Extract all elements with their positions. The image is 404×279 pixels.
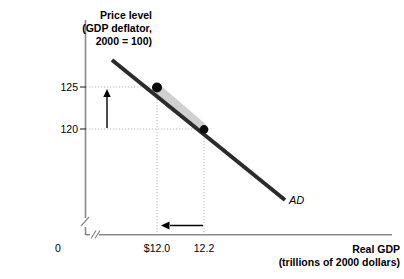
ad-curve-figure: Price level (GDP deflator, 2000 = 100) R… xyxy=(0,0,404,279)
price-level-rise-arrow xyxy=(103,89,110,128)
y-axis-label: Price level (GDP deflator, 2000 = 100) xyxy=(0,9,152,48)
x-axis-label: Real GDP (trillions of 2000 dollars) xyxy=(236,243,400,269)
x-tick-label-12-2: 12.2 xyxy=(178,242,230,254)
real-gdp-fall-arrow xyxy=(161,222,203,230)
y-tick-label-125: 125 xyxy=(44,81,78,93)
x-axis-label-line-2: (trillions of 2000 dollars) xyxy=(236,256,400,269)
axes xyxy=(81,20,392,239)
ad-curve xyxy=(112,60,285,200)
y-tick-label-120: 120 xyxy=(44,123,78,135)
point-a-marker xyxy=(152,83,162,93)
ad-curve-label: AD xyxy=(289,194,304,206)
y-axis-label-line-2: (GDP deflator, xyxy=(0,22,152,35)
point-b-marker xyxy=(200,125,209,134)
x-axis-break-mark xyxy=(91,231,100,239)
y-axis-label-line-3: 2000 = 100) xyxy=(0,35,152,48)
movement-highlight xyxy=(160,91,202,127)
y-axis-break-mark xyxy=(81,217,89,226)
x-axis-label-line-1: Real GDP xyxy=(236,243,400,256)
x-tick-label-12-0: $12.0 xyxy=(131,242,183,254)
y-axis-label-line-1: Price level xyxy=(0,9,152,22)
origin-label: 0 xyxy=(48,242,68,254)
